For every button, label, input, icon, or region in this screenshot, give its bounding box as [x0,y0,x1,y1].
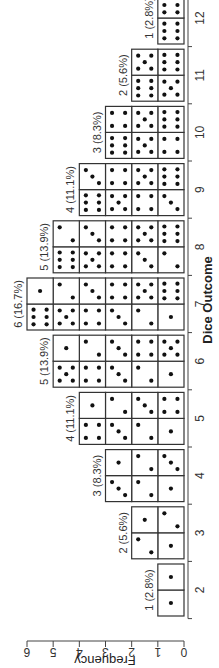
x-axis-title: Dice Outcome [200,256,215,343]
die-pip [97,379,101,383]
die-pip [149,137,153,141]
die-pip [175,80,179,84]
y-tick-label: 6 [23,645,30,659]
die-pip [175,175,179,179]
die-pip [97,295,101,299]
dice-sum-frequency-chart: 012345623456789101112 1 (2.8%)2 (5.6%)3 … [0,0,219,668]
die-pip [84,366,88,370]
die-pip [169,487,173,491]
die-pip [123,238,127,242]
die-pip [71,265,75,269]
die-pip [136,124,140,128]
die-pip [149,207,153,211]
die-pip [175,167,179,171]
die-pip [175,60,179,64]
die-face [106,278,132,304]
die-pip [123,379,127,383]
die-pip [84,201,88,205]
die-pip [84,251,88,255]
die-pip [97,201,101,205]
die-pip [84,208,88,212]
die-face [79,190,105,216]
die-pip [175,264,179,268]
die-pip [149,124,153,128]
die-pip [162,137,166,141]
die-pip [45,322,49,326]
die-pip [136,111,140,115]
die-pip [116,487,120,491]
die-pip [143,518,147,522]
die-pip [143,289,147,293]
die-pip [123,194,127,198]
die-pip [90,175,94,179]
die-pip [175,29,179,33]
die-pip [123,295,127,299]
die-pip [162,10,166,14]
die-face [132,361,158,387]
die-pip [162,511,166,515]
die-pip [175,340,179,344]
die-pip [149,321,153,325]
die-pip [162,53,166,57]
die-face [106,106,132,132]
die-face [158,18,184,44]
die-pip [149,353,153,357]
bar-3: 2 (5.6%) [117,507,184,559]
die-face [158,106,184,132]
die-face [132,418,158,444]
die-pip [149,238,153,242]
die-pip [71,321,75,325]
die-pip [175,182,179,186]
die-pip [84,436,88,440]
die-pip [123,493,127,497]
die-face [79,418,105,444]
die-pip [149,194,153,198]
die-pip [149,111,153,115]
die-face [158,247,184,273]
die-pip [110,308,114,312]
die-pip [136,238,140,242]
die-face [53,221,79,247]
die-pip [162,454,166,458]
die-face [132,335,158,361]
die-pip [175,117,179,121]
bar-value-label: 5 (13.9%) [38,337,50,385]
die-pip [136,181,140,185]
die-pip [84,264,88,268]
die-pip [45,315,49,319]
die-pip [149,79,153,83]
die-pip [97,366,101,370]
die-pip [175,22,179,26]
die-pip [136,79,140,83]
die-pip [162,93,166,97]
die-pip [90,289,94,293]
y-tick-label: 1 [154,645,161,659]
die-pip [149,340,153,344]
die-pip [84,225,88,229]
die-pip [162,232,166,236]
die-pip [136,251,140,255]
die-pip [169,372,173,376]
die-face [158,507,184,533]
die-pip [162,67,166,71]
die-pip [149,436,153,440]
die-pip [84,168,88,172]
die-pip [162,22,166,26]
die-pip [110,181,114,185]
die-pip [175,125,179,129]
die-pip [97,238,101,242]
die-pip [64,346,68,350]
die-pip [123,436,127,440]
die-pip [162,296,166,300]
die-pip [97,181,101,185]
x-tick-label: 11 [193,69,207,82]
x-tick-label: 3 [193,529,207,536]
die-pip [71,295,75,299]
die-pip [175,53,179,57]
die-pip [123,168,127,172]
die-pip [116,201,120,205]
die-pip [175,150,179,154]
die-pip [149,225,153,229]
die-pip [175,10,179,14]
die-pip [136,366,140,370]
